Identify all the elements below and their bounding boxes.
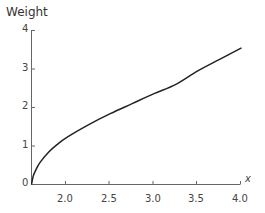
plot-area bbox=[0, 0, 265, 213]
weight-curve bbox=[32, 48, 242, 185]
axes bbox=[31, 30, 241, 185]
